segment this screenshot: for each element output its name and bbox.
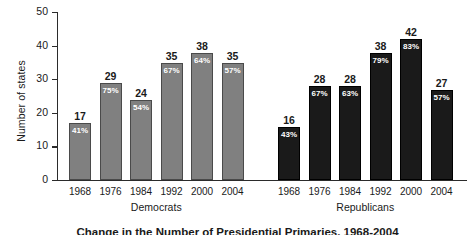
- bar: 3567%: [161, 63, 183, 181]
- bar-value-label: 27: [436, 77, 448, 89]
- bar-value-label: 17: [74, 110, 86, 122]
- x-tick-label: 1976: [308, 186, 330, 197]
- group-label: Democrats: [131, 201, 182, 213]
- bar-value-label: 24: [135, 87, 147, 99]
- y-tick-label: 30: [36, 72, 48, 84]
- bar-value-label: 28: [314, 73, 326, 85]
- bar-value-label: 28: [344, 73, 356, 85]
- bar-value-label: 29: [105, 70, 117, 82]
- y-tick: 10: [52, 146, 57, 147]
- bar-percent-label: 41%: [72, 126, 88, 135]
- bar: 4283%: [400, 39, 422, 180]
- bar-chart: Number of states 01020304050 1741%2975%2…: [0, 0, 475, 235]
- y-tick: 50: [52, 12, 57, 13]
- bar-percent-label: 67%: [311, 89, 327, 98]
- x-tick-label: 1984: [339, 186, 361, 197]
- bar-percent-label: 75%: [102, 86, 118, 95]
- y-tick: 20: [52, 113, 57, 114]
- y-axis-title: Number of states: [15, 26, 27, 176]
- x-tick-label: 2000: [191, 186, 213, 197]
- x-tick-label: 1976: [99, 186, 121, 197]
- bar-percent-label: 63%: [342, 89, 358, 98]
- bar: 3864%: [191, 53, 213, 181]
- bar-value-label: 38: [196, 40, 208, 52]
- x-tick-label: 1992: [160, 186, 182, 197]
- bar: 1741%: [69, 123, 91, 180]
- bar: 2454%: [130, 100, 152, 181]
- y-tick: 40: [52, 46, 57, 47]
- bar-percent-label: 43%: [281, 130, 297, 139]
- y-tick-label: 20: [36, 106, 48, 118]
- bar: 2863%: [339, 86, 361, 180]
- bar-value-label: 42: [405, 26, 417, 38]
- x-tick-label: 1992: [369, 186, 391, 197]
- bar-percent-label: 54%: [133, 103, 149, 112]
- bar-percent-label: 79%: [372, 56, 388, 65]
- bar: 1643%: [278, 127, 300, 181]
- bar: 3879%: [370, 53, 392, 181]
- plot-area: 01020304050 1741%2975%2454%3567%3864%355…: [57, 12, 467, 181]
- bar: 3557%: [222, 63, 244, 181]
- y-tick-label: 50: [36, 5, 48, 17]
- x-tick-label: 2004: [221, 186, 243, 197]
- bar-value-label: 38: [375, 40, 387, 52]
- x-tick-label: 2000: [400, 186, 422, 197]
- bar-value-label: 35: [166, 50, 178, 62]
- bar-value-label: 16: [283, 114, 295, 126]
- bar: 2867%: [309, 86, 331, 180]
- bar: 2757%: [431, 90, 453, 181]
- y-tick-label: 10: [36, 139, 48, 151]
- bar-percent-label: 83%: [403, 42, 419, 51]
- x-tick-label: 1968: [69, 186, 91, 197]
- x-tick-label: 1984: [130, 186, 152, 197]
- bar: 2975%: [100, 83, 122, 180]
- bar-value-label: 35: [227, 50, 239, 62]
- group-label: Republicans: [336, 201, 394, 213]
- bar-percent-label: 57%: [224, 66, 240, 75]
- chart-caption: Change in the Number of Presidential Pri…: [0, 226, 475, 235]
- y-tick: 0: [52, 180, 57, 181]
- bar-percent-label: 57%: [433, 93, 449, 102]
- x-tick-label: 2004: [430, 186, 452, 197]
- y-tick-label: 40: [36, 39, 48, 51]
- y-axis-line: [57, 12, 58, 181]
- y-tick-label: 0: [42, 173, 48, 185]
- bar-percent-label: 67%: [163, 66, 179, 75]
- x-tick-label: 1968: [278, 186, 300, 197]
- y-tick: 30: [52, 79, 57, 80]
- bar-percent-label: 64%: [194, 56, 210, 65]
